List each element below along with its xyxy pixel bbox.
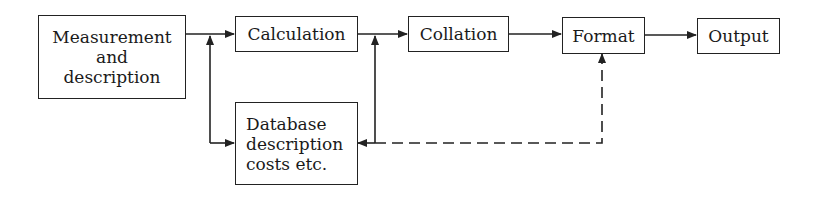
node-output: Output (697, 18, 780, 54)
node-measurement-and-description: Measurement and description (38, 15, 186, 99)
node-label-line: description (52, 67, 171, 87)
node-label-line: costs etc. (246, 154, 343, 174)
node-database-description-costs: Database description costs etc. (235, 102, 358, 185)
node-label: Calculation (247, 24, 345, 44)
node-calculation: Calculation (235, 16, 358, 52)
dashed-arrow-database-to-format (375, 54, 602, 143)
node-label-line: description (246, 134, 343, 154)
node-format: Format (562, 17, 645, 54)
node-label-line: Measurement (52, 27, 171, 47)
node-label-line: and (52, 47, 171, 67)
node-label: Output (708, 26, 768, 46)
node-collation: Collation (408, 16, 509, 52)
node-label: Format (572, 26, 634, 46)
node-label: Collation (420, 24, 498, 44)
node-label-line: Database (246, 114, 343, 134)
